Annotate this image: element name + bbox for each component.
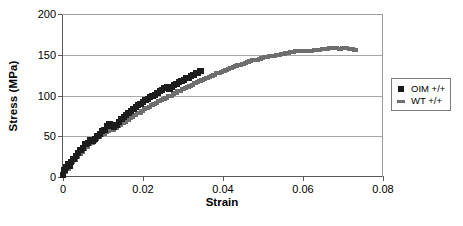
x-tick-label: 0.04 — [212, 184, 233, 195]
y-tick-label: 200 — [38, 9, 56, 20]
x-tick — [303, 176, 304, 181]
legend-item-wt: WT +/+ — [396, 95, 445, 106]
gridline — [63, 136, 382, 137]
legend-item-oim: OIM +/+ — [396, 83, 445, 94]
y-axis-title-label: Stress (MPa) — [7, 60, 19, 131]
y-axis-title: Stress (MPa) — [6, 14, 20, 177]
x-tick — [223, 176, 224, 181]
stress-strain-chart: Stress (MPa) 050100150200 00.020.040.060… — [0, 0, 463, 226]
gridline — [63, 55, 382, 56]
x-axis-title-label: Strain — [206, 196, 239, 208]
y-tick-label: 50 — [44, 131, 56, 142]
y-tick-label: 100 — [38, 90, 56, 101]
chart-legend: OIM +/+ WT +/+ — [391, 78, 451, 111]
y-tick-label: 0 — [50, 172, 56, 183]
y-tick — [58, 55, 63, 56]
x-tick-label: 0.02 — [132, 184, 153, 195]
plot-area: 050100150200 00.020.040.060.08 — [62, 14, 382, 177]
legend-label-oim: OIM +/+ — [411, 84, 445, 94]
y-tick — [58, 96, 63, 97]
x-tick-label: 0.08 — [372, 184, 393, 195]
x-tick-label: 0 — [60, 184, 66, 195]
y-tick — [58, 136, 63, 137]
legend-label-wt: WT +/+ — [411, 96, 442, 106]
x-tick — [143, 176, 144, 181]
plot-frame-top — [62, 14, 382, 15]
x-tick — [383, 176, 384, 181]
x-tick-label: 0.06 — [292, 184, 313, 195]
data-point — [352, 48, 358, 52]
x-axis-title: Strain — [62, 196, 382, 208]
dash-marker-icon — [396, 95, 407, 106]
square-marker-icon — [396, 83, 407, 94]
plot-frame-right — [382, 14, 383, 177]
gridline — [63, 96, 382, 97]
y-tick-label: 150 — [38, 49, 56, 60]
data-point — [197, 68, 204, 74]
